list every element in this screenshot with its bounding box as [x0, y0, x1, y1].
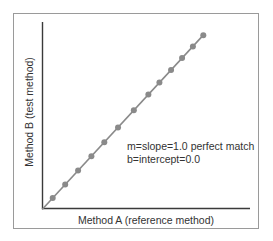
x-axis-label: Method A (reference method): [78, 214, 214, 226]
data-point: [101, 139, 107, 145]
data-point: [200, 32, 206, 38]
data-series: [42, 32, 206, 209]
data-point: [88, 153, 94, 159]
data-point: [75, 168, 81, 174]
data-point: [190, 43, 196, 49]
annotation-intercept: b=intercept=0.0: [127, 153, 200, 165]
data-point: [62, 182, 68, 188]
data-point: [179, 55, 185, 61]
data-point: [168, 67, 174, 73]
data-point: [50, 195, 56, 201]
data-point: [156, 80, 162, 86]
data-point: [145, 92, 151, 98]
axes: [42, 22, 250, 209]
y-axis-label: Method B (test method): [23, 57, 35, 167]
annotation-slope: m=slope=1.0 perfect match: [127, 140, 254, 152]
data-point: [131, 107, 137, 113]
scatter-line-chart: m=slope=1.0 perfect match b=intercept=0.…: [0, 0, 273, 241]
data-point: [115, 124, 121, 130]
